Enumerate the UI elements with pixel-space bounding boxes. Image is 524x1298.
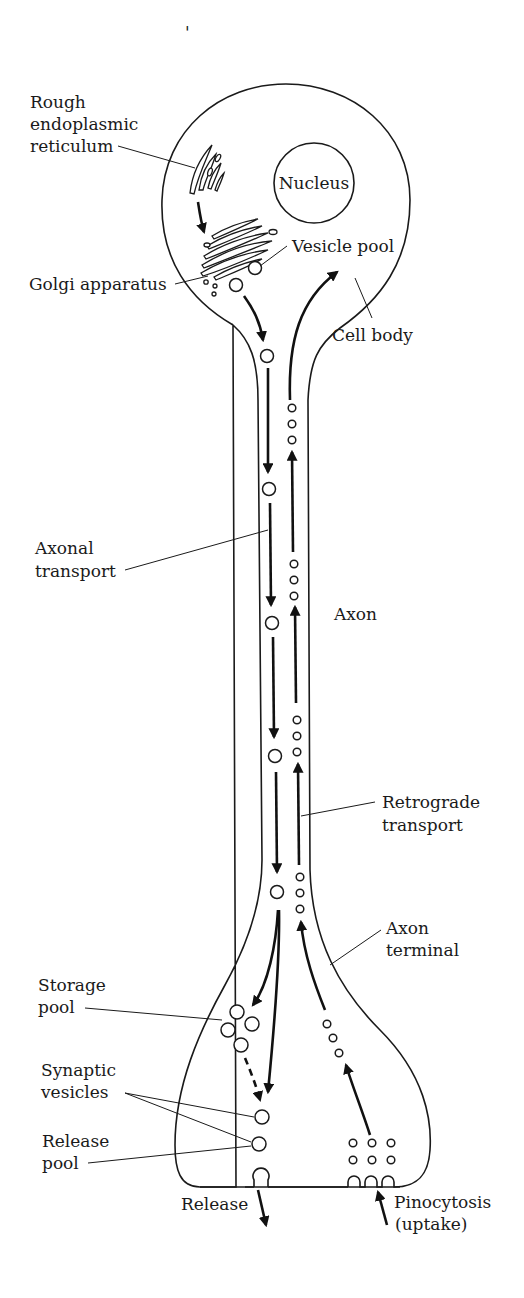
label-pinocytosis: Pinocytosis (uptake)	[394, 1192, 497, 1234]
rough-er-icon	[190, 145, 224, 194]
pinocytosed-vesicle	[368, 1156, 376, 1164]
retrograde-arrow	[298, 764, 299, 865]
label-cell-body: Cell body	[332, 325, 413, 345]
to-storage-arrow	[253, 910, 278, 1005]
pinocytosed-vesicle	[349, 1156, 357, 1164]
pinocytosed-vesicle	[387, 1156, 395, 1164]
release-arrow	[258, 1190, 266, 1225]
leader-synaptic-vesicles-2	[125, 1093, 251, 1142]
retrograde-arrow	[295, 607, 296, 703]
retro-vesicle	[293, 716, 301, 724]
transported-vesicle	[263, 483, 276, 496]
leader-storage-pool	[85, 1008, 222, 1020]
pinocytosed-vesicle	[368, 1139, 376, 1147]
retrograde-arrow	[292, 452, 293, 552]
transported-vesicle	[266, 617, 279, 630]
leader-axonal-transport	[125, 530, 268, 570]
synaptic-vesicle	[252, 1137, 266, 1151]
anterograde-arrow	[244, 296, 263, 340]
nucleus-label: Nucleus	[279, 173, 350, 193]
retro-vesicle	[296, 889, 304, 897]
label-vesicle-pool: Vesicle pool	[291, 236, 394, 256]
storage-to-release-dashed-arrow	[245, 1058, 260, 1100]
retro-vesicle	[290, 592, 298, 600]
storage-vesicle	[221, 1023, 235, 1037]
transported-vesicle	[261, 350, 274, 363]
leader-golgi	[175, 276, 208, 284]
label-golgi: Golgi apparatus	[29, 274, 167, 294]
to-release-arrow	[268, 910, 279, 1092]
pinocytosed-vesicle	[387, 1139, 395, 1147]
anterograde-arrow	[270, 503, 271, 605]
leader-retrograde-transport	[301, 802, 375, 816]
pinocytosis-bumps	[348, 1176, 400, 1187]
synaptic-vesicle	[255, 1110, 269, 1124]
vesicle-pool-vesicle	[230, 279, 243, 292]
exocytosis-bump	[253, 1168, 269, 1187]
leader-vesicle-pool	[260, 246, 287, 266]
retro-vesicle	[335, 1049, 343, 1057]
label-release: Release	[181, 1194, 248, 1214]
label-synaptic-vesicles: Synaptic vesicles	[40, 1060, 121, 1102]
storage-vesicle	[234, 1038, 248, 1052]
retro-vesicle	[293, 732, 301, 740]
retro-vesicle	[288, 404, 296, 412]
transported-vesicle	[269, 750, 282, 763]
retro-vesicle	[290, 576, 298, 584]
leader-synaptic-vesicles-1	[125, 1093, 254, 1117]
label-rough-er: Rough endoplasmic reticulum	[30, 92, 144, 156]
retro-vesicle	[296, 905, 304, 913]
pinocytosed-vesicle	[349, 1139, 357, 1147]
retro-vesicle	[290, 560, 298, 568]
retro-vesicle	[293, 748, 301, 756]
leader-cell-body	[355, 278, 372, 318]
transported-vesicle	[271, 886, 284, 899]
retrograde-arrow	[346, 1065, 370, 1135]
label-storage-pool: Storage pool	[38, 975, 111, 1017]
leader-rough-er	[118, 146, 195, 168]
vesicle-pool-vesicle	[249, 262, 262, 275]
label-axon: Axon	[333, 604, 377, 624]
neuron-diagram: ' Nucleus	[0, 0, 524, 1298]
storage-vesicle	[230, 1005, 244, 1019]
stray-mark: '	[185, 22, 190, 42]
retro-vesicle	[288, 420, 296, 428]
retro-vesicle	[329, 1034, 337, 1042]
er-to-golgi-arrow	[198, 202, 204, 232]
label-release-pool: Release pool	[42, 1131, 115, 1173]
retro-vesicle	[296, 873, 304, 881]
label-retrograde-transport: Retrograde transport	[382, 792, 486, 835]
storage-vesicle	[245, 1017, 259, 1031]
retro-vesicle	[288, 436, 296, 444]
pinocytosis-arrow	[378, 1192, 387, 1225]
label-axon-terminal: Axon terminal	[385, 918, 459, 960]
anterograde-arrow	[276, 772, 277, 872]
retro-vesicle	[323, 1020, 331, 1028]
label-axonal-transport: Axonal transport	[34, 538, 116, 581]
anterograde-arrow	[273, 637, 274, 737]
leader-axon-terminal	[330, 930, 381, 965]
